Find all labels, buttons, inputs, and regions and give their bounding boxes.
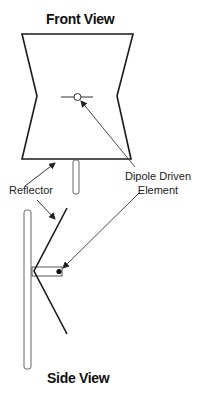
side-view-title: Side View xyxy=(47,370,109,386)
dipole-label-line2: Element xyxy=(118,183,198,197)
side-view xyxy=(24,193,139,369)
diagram-drawing xyxy=(0,0,211,397)
dipole-feed-circle xyxy=(74,94,81,101)
mast-side xyxy=(24,210,31,369)
dipole-dot-side xyxy=(56,269,61,274)
reflector-label: Reflector xyxy=(9,183,53,197)
reflector-arrow-side xyxy=(37,200,55,219)
dipole-label: Dipole Driven Element xyxy=(118,169,198,197)
dipole-arrow-side xyxy=(63,193,139,268)
antenna-diagram: Front View xyxy=(0,0,211,397)
dipole-label-line1: Dipole Driven xyxy=(118,169,198,183)
mast-front xyxy=(73,160,79,194)
